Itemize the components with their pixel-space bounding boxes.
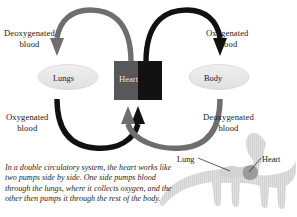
label-line-1: Oxygenated (206, 28, 249, 39)
node-label-heart: Heart (119, 74, 138, 84)
dinosaur-label-heart: Heart (262, 155, 280, 164)
diagram-page: Deoxygenated blood Oxygenated blood Oxyg… (0, 0, 297, 217)
figure-caption: In a double circulatory system, the hear… (5, 163, 177, 205)
label-line-1: Deoxygenated (4, 28, 55, 39)
label-deoxygenated-blood-bottom: Deoxygenated blood (203, 112, 254, 134)
arrow-heart-to-lungs (50, 10, 131, 62)
label-oxygenated-blood-top: Oxygenated blood (206, 28, 249, 50)
dinosaur-lung-leader (198, 158, 230, 171)
label-line-1: Deoxygenated (203, 112, 254, 123)
label-line-2: blood (203, 123, 254, 134)
node-label-body: Body (204, 74, 222, 83)
label-line-2: blood (6, 123, 49, 134)
label-deoxygenated-blood-top: Deoxygenated blood (4, 28, 55, 50)
label-line-1: Oxygenated (6, 112, 49, 123)
label-line-2: blood (206, 39, 249, 50)
label-oxygenated-blood-bottom: Oxygenated blood (6, 112, 49, 134)
dinosaur-label-lung: Lung (177, 155, 195, 164)
node-label-lungs: Lungs (53, 74, 74, 83)
label-line-2: blood (4, 39, 55, 50)
dinosaur-silhouette (160, 133, 296, 209)
